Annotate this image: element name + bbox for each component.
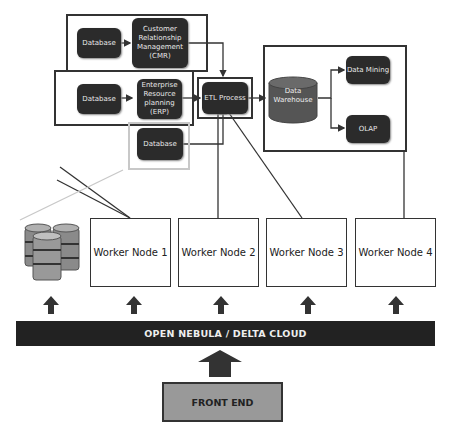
up-arrow-icon: [43, 296, 59, 314]
big-up-arrow-icon: [198, 350, 242, 377]
up-arrows: [0, 0, 452, 438]
cloud-platform-bar: OPEN NEBULA / DELTA CLOUD: [16, 321, 435, 346]
up-arrow-icon: [213, 296, 229, 314]
front-end-box: FRONT END: [162, 382, 283, 422]
up-arrow-icon: [126, 296, 142, 314]
up-arrow-icon: [388, 296, 404, 314]
up-arrow-icon: [300, 296, 316, 314]
